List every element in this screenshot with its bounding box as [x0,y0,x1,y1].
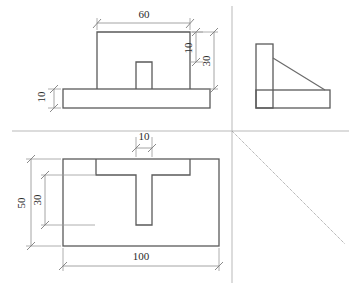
dim-100-top-label: 100 [133,250,150,262]
side-base-plate [256,90,330,108]
dim-30-front-label: 30 [200,55,212,67]
side-vertical-web [256,44,273,108]
dim-10-top-label: 10 [139,130,151,142]
miter-diagonal-line [232,131,345,244]
front-upright-plate [97,32,190,89]
front-base-plate [63,89,210,108]
engineering-drawing-canvas: 60 10 30 10 [0,0,352,286]
dim-50-top-label: 50 [15,197,27,209]
orthographic-projection-drawing: 60 10 30 10 [0,0,352,286]
dimension-100-top-group: 100 [59,248,223,271]
top-view-group [63,159,219,246]
dim-10-front-base-label: 10 [35,91,47,103]
dimension-10-top-group: 10 [132,130,156,157]
top-base-plate [63,159,219,246]
side-diagonal-gusset-line [273,58,325,90]
dim-30-top-label: 30 [31,194,43,206]
top-t-rib-outline [96,159,190,225]
front-center-slot [136,62,152,89]
dim-10-front-upper-label: 10 [182,42,194,54]
dimension-60-group: 60 [93,8,194,30]
side-view-group [256,44,330,108]
dimension-10-front-base-group: 10 [35,85,61,112]
dim-60-label: 60 [139,8,151,20]
